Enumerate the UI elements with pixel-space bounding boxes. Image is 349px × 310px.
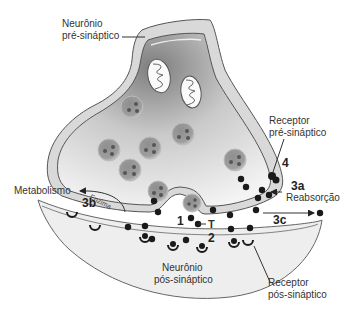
- vesicle: [119, 159, 141, 181]
- step-4-label: 4: [282, 157, 289, 170]
- metabolism-label: Metabolismo: [14, 185, 71, 197]
- fusing-vesicle: [183, 194, 201, 212]
- post-receptor-label-line2: pós-sináptico: [268, 289, 327, 301]
- vesicle: [224, 149, 246, 171]
- step-1-label: 1: [177, 215, 184, 228]
- synapse-diagram: Neurônio pré-sináptico Receptor pré-siná…: [0, 0, 349, 310]
- reuptake-label: Reabsorção: [286, 192, 340, 204]
- post-receptor-label-line1: Receptor: [268, 277, 309, 289]
- pre-receptor-label-line1: Receptor: [269, 115, 310, 127]
- post-neuron-label-line2: pós-sináptico: [154, 274, 213, 286]
- step-3b-label: 3b: [82, 197, 96, 210]
- post-neuron-label-line1: Neurônio: [162, 262, 203, 274]
- vesicle: [121, 96, 143, 118]
- vesicle: [172, 123, 194, 145]
- pre-neuron-label-line1: Neurônio: [62, 18, 103, 30]
- transmitter-label: T: [208, 218, 215, 230]
- step-3c-label: 3c: [273, 214, 286, 227]
- vesicle: [148, 181, 168, 201]
- step-2-label: 2: [208, 232, 215, 245]
- pre-neuron-label-line2: pré-sináptico: [62, 30, 119, 42]
- vesicle: [139, 137, 161, 159]
- vesicle: [98, 139, 120, 161]
- pre-receptor-label-line2: pré-sináptico: [269, 127, 326, 139]
